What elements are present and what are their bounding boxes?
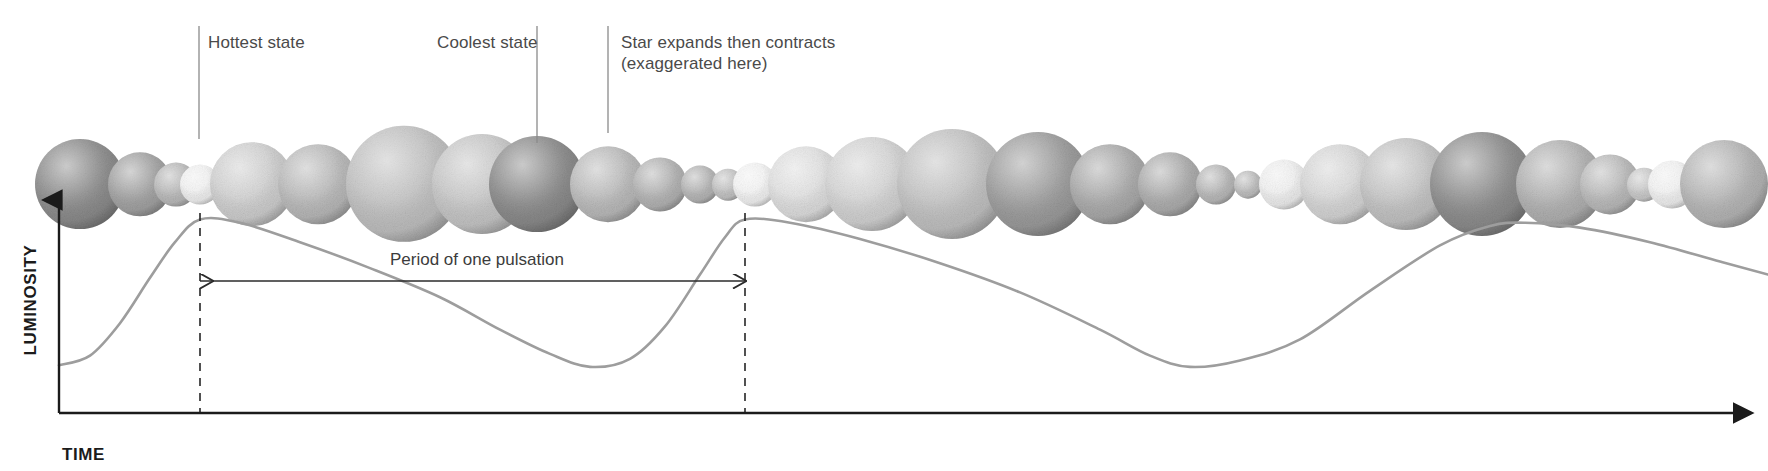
star-sphere xyxy=(1138,152,1202,216)
star-sphere xyxy=(1196,165,1236,205)
star-sequence xyxy=(35,126,1768,242)
star-sphere xyxy=(1070,144,1150,224)
star-sphere xyxy=(1680,140,1768,228)
callout-coolest-state-label: Coolest state xyxy=(437,33,538,52)
star-sphere xyxy=(278,144,358,224)
callout-expands-contracts-label-line1: Star expands then contracts xyxy=(621,33,835,52)
star-sphere xyxy=(633,157,687,211)
callout-expands-contracts-label-line2: (exaggerated here) xyxy=(621,54,767,73)
star-sphere xyxy=(1234,171,1262,199)
period-of-one-pulsation-label: Period of one pulsation xyxy=(390,250,564,269)
y-axis-label: LUMINOSITY xyxy=(21,245,40,356)
x-axis-label: TIME xyxy=(62,445,105,464)
pulsating-star-diagram: Hottest state Coolest state Star expands… xyxy=(0,0,1768,471)
diagram-canvas: Hottest state Coolest state Star expands… xyxy=(0,0,1768,471)
callout-hottest-state-label: Hottest state xyxy=(208,33,305,52)
luminosity-light-curve xyxy=(59,218,1768,367)
